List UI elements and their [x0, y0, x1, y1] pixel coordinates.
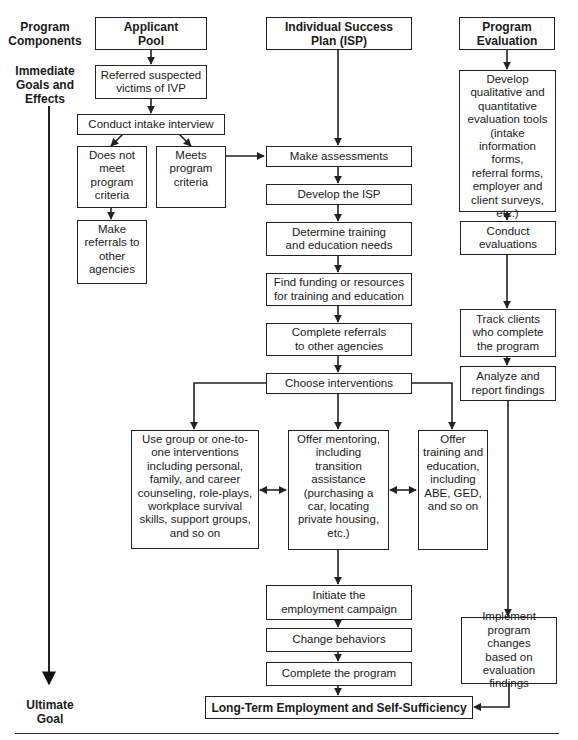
referred-victims-text: Referred suspected victims of IVP — [101, 69, 201, 96]
change-behaviors-text: Change behaviors — [292, 633, 385, 646]
implement-changes-box: Implement program changes based on evalu… — [461, 617, 557, 684]
make-referrals-text: Make referrals to other agencies — [85, 223, 140, 277]
meets-criteria-text: Meets program criteria — [170, 149, 213, 189]
isp-header: Individual Success Plan (ISP) — [266, 17, 412, 50]
mentoring-text: Offer mentoring, including transition as… — [297, 433, 380, 540]
make-referrals-box: Make referrals to other agencies — [77, 220, 147, 284]
develop-isp-text: Develop the ISP — [297, 188, 380, 201]
analyze-report-text: Analyze and report findings — [472, 370, 545, 397]
find-funding-box: Find funding or resources for training a… — [266, 273, 412, 306]
long-term-employment-text: Long-Term Employment and Self-Sufficienc… — [211, 701, 466, 715]
intake-interview-box: Conduct intake interview — [77, 114, 225, 135]
develop-tools-box: Develop qualitative and quantitative eva… — [459, 70, 556, 212]
applicant-pool-text: Applicant Pool — [124, 20, 179, 48]
initiate-campaign-text: Initiate the employment campaign — [281, 589, 397, 616]
isp-header-text: Individual Success Plan (ISP) — [285, 20, 393, 48]
group-interventions-box: Use group or one-to- one interventions i… — [131, 430, 259, 549]
conduct-evaluations-text: Conduct evaluations — [479, 225, 537, 252]
immediate-goals-label: Immediate Goals and Effects — [4, 64, 86, 106]
track-clients-text: Track clients who complete the program — [473, 313, 544, 353]
ultimate-goal-label: Ultimate Goal — [14, 698, 86, 726]
find-funding-text: Find funding or resources for training a… — [274, 276, 404, 303]
determine-needs-text: Determine training and education needs — [286, 226, 393, 253]
choose-interventions-box: Choose interventions — [266, 373, 412, 394]
change-behaviors-box: Change behaviors — [266, 628, 412, 652]
choose-interventions-text: Choose interventions — [285, 377, 393, 390]
complete-referrals-box: Complete referrals to other agencies — [266, 323, 412, 356]
intake-interview-text: Conduct intake interview — [88, 118, 213, 131]
complete-program-text: Complete the program — [282, 667, 396, 680]
program-evaluation-header: Program Evaluation — [459, 17, 555, 50]
referred-victims-box: Referred suspected victims of IVP — [95, 65, 207, 99]
group-interventions-text: Use group or one-to- one interventions i… — [138, 433, 252, 540]
make-assessments-text: Make assessments — [290, 150, 388, 163]
track-clients-box: Track clients who complete the program — [460, 309, 556, 357]
mentoring-box: Offer mentoring, including transition as… — [288, 430, 389, 550]
training-education-box: Offer training and education, including … — [418, 430, 488, 550]
complete-program-box: Complete the program — [266, 662, 412, 686]
implement-changes-text: Implement program changes based on evalu… — [465, 610, 553, 690]
develop-tools-text: Develop qualitative and quantitative eva… — [463, 73, 552, 220]
training-education-text: Offer training and education, including … — [423, 433, 483, 513]
program-evaluation-text: Program Evaluation — [477, 20, 538, 48]
long-term-employment-box: Long-Term Employment and Self-Sufficienc… — [205, 696, 473, 719]
initiate-campaign-box: Initiate the employment campaign — [266, 585, 412, 620]
program-components-label: Program Components — [4, 20, 86, 48]
applicant-pool-header: Applicant Pool — [95, 17, 207, 50]
meets-criteria-box: Meets program criteria — [156, 146, 226, 208]
complete-referrals-text: Complete referrals to other agencies — [292, 326, 387, 353]
does-not-meet-text: Does not meet program criteria — [89, 149, 135, 203]
make-assessments-box: Make assessments — [266, 146, 412, 167]
does-not-meet-criteria-box: Does not meet program criteria — [77, 146, 147, 208]
develop-isp-box: Develop the ISP — [266, 184, 412, 205]
bottom-rule — [15, 733, 559, 734]
analyze-report-box: Analyze and report findings — [460, 366, 556, 401]
determine-needs-box: Determine training and education needs — [266, 222, 412, 256]
conduct-evaluations-box: Conduct evaluations — [460, 221, 556, 255]
